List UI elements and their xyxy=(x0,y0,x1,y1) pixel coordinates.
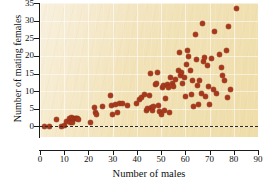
data-point xyxy=(194,57,199,62)
y-axis-tick xyxy=(34,21,39,22)
data-point xyxy=(188,68,193,73)
data-point xyxy=(148,71,153,76)
data-point xyxy=(108,93,113,98)
gridline-horizontal xyxy=(40,21,258,22)
x-axis-tick-label: 90 xyxy=(248,155,263,164)
y-axis-title: Number of mating females xyxy=(12,0,23,141)
x-axis-line xyxy=(39,150,259,151)
x-axis-tick-label: 20 xyxy=(78,155,98,164)
y-axis-tick xyxy=(34,126,39,127)
data-point xyxy=(142,92,147,97)
x-axis-tick-label: 0 xyxy=(30,155,50,164)
data-point xyxy=(154,81,159,86)
x-axis-tick-label: 10 xyxy=(54,155,74,164)
y-axis-tick xyxy=(34,109,39,110)
y-axis-tick xyxy=(34,3,39,4)
data-point xyxy=(212,29,217,34)
plot-area xyxy=(40,3,258,137)
gridline-horizontal xyxy=(40,3,258,4)
y-axis-tick xyxy=(34,38,39,39)
data-point xyxy=(228,87,233,92)
zero-reference-line xyxy=(40,126,258,127)
gridline-vertical xyxy=(210,3,211,137)
gridline-vertical xyxy=(137,3,138,137)
gridline-vertical xyxy=(88,3,89,137)
gridline-vertical xyxy=(64,3,65,137)
data-point xyxy=(193,32,198,37)
gridline-horizontal xyxy=(40,56,258,57)
x-axis-tick-label: 70 xyxy=(200,155,220,164)
y-axis-tick xyxy=(34,91,39,92)
gridline-vertical xyxy=(185,3,186,137)
y-axis-tick xyxy=(34,74,39,75)
y-axis-tick xyxy=(34,56,39,57)
gridline-horizontal xyxy=(40,38,258,39)
data-point xyxy=(147,93,152,98)
gridline-vertical xyxy=(234,3,235,137)
data-point xyxy=(177,50,182,55)
gridline-vertical xyxy=(40,3,41,137)
data-point xyxy=(182,75,187,80)
data-point xyxy=(205,63,210,68)
scatter-plot-figure: 05101520253035 0102030405060708090 Numbe… xyxy=(0,0,263,188)
x-axis-tick-label: 60 xyxy=(175,155,195,164)
x-axis-tick-label: 50 xyxy=(151,155,171,164)
data-point xyxy=(184,62,189,67)
x-axis-tick-label: 30 xyxy=(103,155,123,164)
data-point xyxy=(159,112,164,117)
x-axis-title: Number of males xyxy=(40,168,258,179)
data-point xyxy=(167,110,172,115)
data-point xyxy=(183,94,188,99)
data-point xyxy=(76,117,81,122)
y-axis-line xyxy=(39,3,40,138)
data-point xyxy=(196,102,201,107)
x-axis-tick-label: 40 xyxy=(127,155,147,164)
x-axis-tick-label: 80 xyxy=(224,155,244,164)
